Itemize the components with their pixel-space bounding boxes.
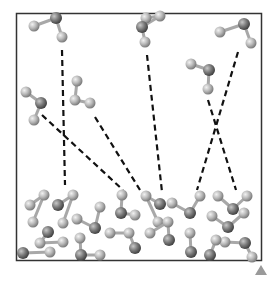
atom <box>58 218 69 229</box>
atom <box>17 247 29 259</box>
surface-molecule <box>115 190 141 221</box>
atom <box>215 27 226 38</box>
gas-molecule <box>215 18 257 49</box>
atom <box>57 32 68 43</box>
atom <box>72 214 83 225</box>
atom <box>42 226 54 238</box>
dashed-line <box>147 55 162 192</box>
atom <box>242 191 253 202</box>
atom <box>195 191 206 202</box>
atom <box>211 235 222 246</box>
gas-molecule <box>136 11 166 48</box>
atom <box>124 228 135 239</box>
atom <box>213 191 224 202</box>
atom <box>154 198 166 210</box>
surface-molecule <box>220 237 258 263</box>
atom <box>50 12 62 24</box>
molecular-diagram <box>0 0 279 282</box>
atom <box>238 18 250 30</box>
atom <box>72 76 83 87</box>
surface-molecule <box>75 233 106 262</box>
atom <box>239 237 251 249</box>
atom <box>185 246 197 258</box>
surface-molecule <box>17 247 56 260</box>
atom <box>203 64 215 76</box>
atom <box>85 98 96 109</box>
corner-marker-triangle-icon <box>255 265 267 275</box>
gas-molecule <box>21 87 48 126</box>
atom <box>184 207 196 219</box>
atom <box>163 234 175 246</box>
dashed-line <box>95 117 140 190</box>
atom <box>185 228 196 239</box>
atom <box>129 242 141 254</box>
dashed-line <box>197 52 238 190</box>
atom <box>117 190 128 201</box>
atom <box>115 207 127 219</box>
gas-molecule <box>70 76 96 109</box>
dashed-line <box>42 115 123 190</box>
atom <box>29 115 40 126</box>
atom <box>45 247 56 258</box>
atom <box>89 222 101 234</box>
atom <box>145 228 156 239</box>
surface-molecule <box>25 190 50 228</box>
atom <box>247 252 258 263</box>
atom <box>155 11 166 22</box>
surface-molecule <box>35 226 69 249</box>
surface-molecule <box>167 191 206 220</box>
atom <box>58 237 69 248</box>
atom <box>239 208 250 219</box>
atom <box>28 217 39 228</box>
atom <box>35 238 46 249</box>
atom <box>21 87 32 98</box>
atom <box>29 21 40 32</box>
atom <box>95 250 106 261</box>
atom <box>95 202 106 213</box>
atom <box>75 249 87 261</box>
atom <box>141 191 152 202</box>
atom <box>163 217 174 228</box>
atom <box>246 38 257 49</box>
atom <box>167 198 178 209</box>
surface-molecule <box>185 228 198 259</box>
atom <box>186 59 197 70</box>
surface-molecule <box>204 235 222 262</box>
atom <box>39 190 50 201</box>
atom <box>25 200 36 211</box>
gas-molecule <box>186 59 216 95</box>
atom <box>222 221 234 233</box>
atom <box>203 84 214 95</box>
surface-molecule <box>141 191 167 228</box>
dashed-line <box>208 100 236 190</box>
surface-molecule <box>105 228 142 255</box>
atom <box>140 37 151 48</box>
atom <box>35 97 47 109</box>
surface-molecule <box>72 202 106 235</box>
molecules <box>17 11 258 263</box>
atom <box>68 190 79 201</box>
atom <box>130 210 141 221</box>
atom <box>105 228 116 239</box>
gas-molecule <box>29 12 68 43</box>
dashed-line <box>62 50 65 185</box>
atom <box>136 21 148 33</box>
atom <box>52 199 64 211</box>
atom <box>75 233 86 244</box>
atom <box>204 249 216 261</box>
atom <box>227 203 239 215</box>
atom <box>207 211 218 222</box>
atom <box>70 95 81 106</box>
